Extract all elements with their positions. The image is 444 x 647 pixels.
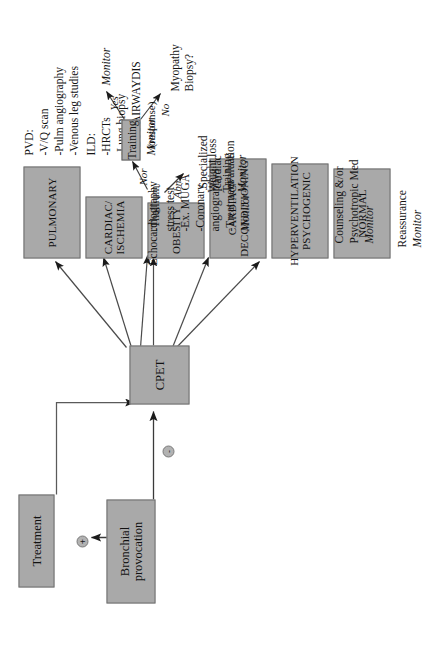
deconditioning-branch-label-yes: Yes	[107, 96, 120, 110]
deconditioning-annotation-echocardiography: Echocardiography	[146, 181, 159, 265]
node-pulmonary-label: PULMONARY	[46, 177, 57, 247]
node-bronchial-provocation-label: Bronchial provocation	[118, 521, 144, 581]
edge-cpet-to-ischemia	[103, 257, 131, 347]
node-training[interactable]: Training	[121, 119, 140, 160]
deconditioning-branch-label-abn: Abn	[170, 180, 183, 198]
deconditioning-annotation-myopathy-biopsy: Myopathy Biopsy?	[168, 44, 195, 91]
normal-annotation-monitor: Monitor	[410, 209, 423, 247]
normal-annotation-reassurance: Reassurance	[395, 190, 408, 247]
node-training-label: Training	[125, 120, 137, 159]
deconditioning-annotation-specialized-cardiac-evaluation: Specialized cardiac evaluation	[196, 135, 237, 188]
sign-negative-badge: -	[162, 445, 174, 457]
sign-positive-badge: +	[76, 535, 88, 547]
ischemia-annotation-monitor: Monitor	[238, 193, 251, 231]
node-cpet-label: CPET	[153, 359, 166, 390]
edge-cpet-to-normal	[176, 261, 259, 347]
pulmonary-annotation-vq-scan: -V/Q scan	[37, 108, 50, 155]
node-hyperventilation-psychogenic-label: HYPERVENTILATION PSYCHOGENIC	[288, 156, 311, 265]
node-bronchial-provocation[interactable]: Bronchial provocation	[106, 499, 155, 603]
pulmonary-annotation-pulm-angiography: -Pulm angiography	[52, 67, 65, 155]
pulmonary-annotation-venous-leg-studies: -Venous leg studies	[67, 66, 80, 155]
node-cardiac-ischemia[interactable]: CARDIAC/ ISCHEMIA	[85, 196, 142, 258]
pulmonary-annotation-ild-heading: ILD:	[84, 133, 97, 155]
hyperventilation-annotation-counseling: Counseling &/or	[332, 166, 345, 243]
ischemia-annotation-coronary: -Coronary	[193, 184, 206, 231]
deconditioning-branch-label-no: No	[158, 103, 171, 116]
node-hyperventilation-psychogenic[interactable]: HYPERVENTILATION PSYCHOGENIC	[271, 163, 328, 258]
hyperventilation-annotation-psychotropic-med: Psychotropic Med	[347, 159, 360, 243]
node-pulmonary[interactable]: PULMONARY	[23, 166, 80, 258]
pulmonary-annotation-hrcts: -HRCTs	[99, 117, 112, 155]
edge-treatment-to-cpet	[56, 402, 134, 494]
deconditioning-annotation-monitor: Monitor	[99, 47, 112, 85]
node-treatment[interactable]: Treatment	[18, 494, 54, 587]
deconditioning-branch-label-nor: Nor	[136, 168, 149, 185]
edge-cpet-to-pulmonary	[55, 261, 126, 347]
deconditioning-annotation-response: (response)	[144, 101, 157, 147]
hyperventilation-annotation-monitor: Monitor	[362, 205, 375, 243]
node-cardiac-ischemia-label: CARDIAC/ ISCHEMIA	[102, 200, 125, 254]
edge-cpet-to-obesity	[140, 255, 147, 347]
sign-negative-label: -	[163, 450, 173, 453]
flowchart-canvas: Bronchial provocation Treatment CPET + -…	[0, 0, 444, 647]
pulmonary-annotation-pvd-heading: PVD:	[22, 129, 35, 155]
rotated-figure-frame: Bronchial provocation Treatment CPET + -…	[0, 0, 444, 647]
sign-positive-label: +	[77, 538, 87, 543]
node-treatment-label: Treatment	[30, 515, 43, 566]
node-cpet[interactable]: CPET	[129, 345, 189, 404]
